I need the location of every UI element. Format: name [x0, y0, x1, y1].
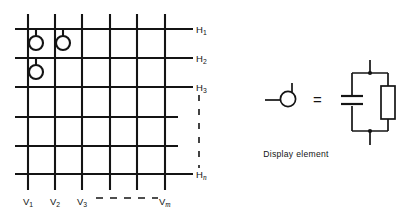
display-elements: [28, 29, 70, 79]
junction-dot-top: [368, 71, 372, 75]
row-label-H3: H3: [196, 82, 207, 94]
element-circle: [56, 36, 70, 50]
column-label-Vm: Vm: [159, 196, 171, 209]
figure-canvas: H1 H2 H3 Hn V1 V2 V3 Vm =: [0, 0, 404, 213]
matrix-column-lines: [28, 14, 165, 190]
junction-dot-bottom: [368, 129, 372, 133]
element-circle: [29, 36, 43, 50]
display-element-v1-h1[interactable]: [28, 29, 43, 50]
equivalent-circuit: [341, 60, 395, 145]
row-label-H1: H1: [196, 24, 207, 36]
row-label-Hn: Hn: [196, 169, 207, 182]
matrix-row-labels: H1 H2 H3 Hn: [196, 24, 207, 182]
column-label-V1: V1: [23, 196, 33, 208]
resistor: [381, 86, 395, 119]
display-matrix: H1 H2 H3 Hn V1 V2 V3 Vm: [15, 14, 207, 209]
column-label-V3: V3: [77, 196, 87, 208]
legend-caption: Display element: [263, 149, 329, 159]
display-element-legend: =: [263, 60, 395, 159]
row-label-H2: H2: [196, 53, 207, 65]
element-circle: [29, 65, 43, 79]
column-label-V2: V2: [50, 196, 60, 208]
display-element-v2-h1[interactable]: [55, 29, 70, 50]
equals-sign: =: [313, 91, 322, 108]
matrix-row-lines: [15, 29, 193, 174]
display-element-symbol: [265, 83, 296, 107]
display-element-v1-h2[interactable]: [28, 58, 43, 79]
figure-matrix-display: H1 H2 H3 Hn V1 V2 V3 Vm =: [0, 0, 404, 213]
symbol-circle: [280, 91, 295, 106]
capacitor: [341, 96, 363, 104]
